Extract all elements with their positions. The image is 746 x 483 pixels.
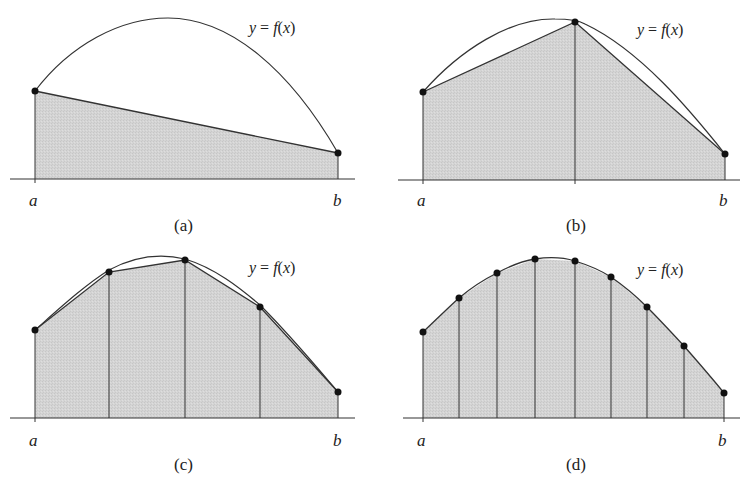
label-a: a	[29, 431, 38, 450]
sample-point	[494, 270, 501, 277]
sample-point	[106, 269, 113, 276]
caption-c: (c)	[174, 455, 193, 474]
label-b: b	[719, 191, 728, 210]
caption-a: (a)	[174, 216, 193, 235]
function-label: y = f(x)	[635, 261, 683, 279]
panel-c: y = f(x) a b (c)	[10, 256, 355, 474]
sample-point	[721, 390, 728, 397]
caption-d: (d)	[566, 455, 586, 474]
label-b: b	[333, 191, 342, 210]
panel-d: y = f(x) a b (d)	[403, 256, 740, 475]
sample-point	[32, 327, 39, 334]
sample-point	[572, 258, 579, 265]
function-label: y = f(x)	[247, 259, 295, 277]
caption-b: (b)	[566, 216, 586, 235]
sample-point	[335, 389, 342, 396]
sample-point	[182, 257, 189, 264]
function-label: y = f(x)	[247, 19, 295, 37]
sample-point	[532, 256, 539, 263]
sample-point	[572, 19, 579, 26]
label-a: a	[29, 191, 38, 210]
panel-a: y = f(x) a b (a)	[10, 18, 355, 235]
sample-point	[722, 151, 729, 158]
sample-point	[681, 343, 688, 350]
label-b: b	[333, 431, 342, 450]
panel-b: y = f(x) a b (b)	[398, 19, 740, 236]
sample-point	[32, 88, 39, 95]
sample-point	[335, 150, 342, 157]
sample-point	[644, 304, 651, 311]
trapezoid-area	[423, 259, 724, 418]
label-b: b	[718, 431, 727, 450]
sample-point	[420, 89, 427, 96]
function-label: y = f(x)	[635, 21, 683, 39]
trapezoid-area	[35, 91, 338, 179]
label-a: a	[417, 431, 426, 450]
sample-point	[456, 295, 463, 302]
trapezoid-diagram: y = f(x) a b (a) y = f(x) a b (b)	[0, 0, 746, 483]
sample-point	[608, 274, 615, 281]
label-a: a	[417, 191, 426, 210]
sample-point	[257, 304, 264, 311]
sample-point	[420, 329, 427, 336]
